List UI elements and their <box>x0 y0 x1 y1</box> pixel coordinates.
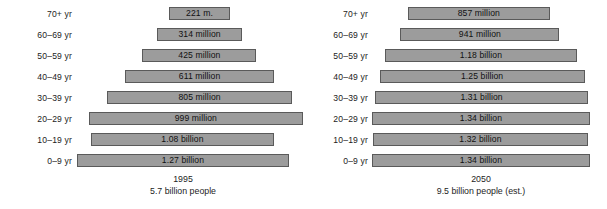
bar-2050-10-19: 1.32 billion <box>373 133 588 146</box>
chart-2050-caption: 2050 9.5 billion people (est.) <box>372 174 590 197</box>
bar-track: 999 million <box>76 109 290 130</box>
age-group-label: 60–69 yr <box>0 25 72 46</box>
bar-value-label: 1.32 billion <box>459 135 501 144</box>
bar-value-label: 1.34 billion <box>460 156 502 165</box>
table-row: 30–39 yr 805 million <box>0 88 300 109</box>
caption-total: 5.7 billion people <box>76 186 290 198</box>
age-group-label: 70+ yr <box>0 4 72 25</box>
bar-track: 1.34 billion <box>372 109 590 130</box>
caption-total: 9.5 billion people (est.) <box>372 186 590 198</box>
table-row: 50–59 yr 425 million <box>0 46 300 67</box>
age-group-label: 50–59 yr <box>300 46 368 67</box>
population-pyramid-figure: 70+ yr 221 m. 60–69 yr 314 million 50–59… <box>0 0 607 209</box>
bar-track: 1.34 billion <box>372 151 590 172</box>
table-row: 30–39 yr 1.31 billion <box>300 88 607 109</box>
bar-2050-20-29: 1.34 billion <box>372 112 590 125</box>
age-group-label: 10–19 yr <box>0 130 72 151</box>
bar-2050-0-9: 1.34 billion <box>372 154 590 167</box>
table-row: 20–29 yr 999 million <box>0 109 300 130</box>
table-row: 60–69 yr 941 million <box>300 25 607 46</box>
bar-value-label: 999 million <box>175 114 217 123</box>
bar-track: 1.31 billion <box>372 88 590 109</box>
bar-track: 1.25 billion <box>372 67 590 88</box>
bar-track: 805 million <box>76 88 290 109</box>
bar-2050-40-49: 1.25 billion <box>380 70 585 83</box>
chart-1995-caption: 1995 5.7 billion people <box>76 174 290 197</box>
bar-track: 425 million <box>76 46 290 67</box>
age-group-label: 70+ yr <box>300 4 368 25</box>
bar-track: 941 million <box>372 25 590 46</box>
bar-1995-20-29: 999 million <box>89 112 303 125</box>
bar-2050-30-39: 1.31 billion <box>375 91 588 104</box>
table-row: 20–29 yr 1.34 billion <box>300 109 607 130</box>
bar-1995-70plus: 221 m. <box>169 7 229 20</box>
bar-value-label: 221 m. <box>186 9 213 18</box>
age-group-label: 20–29 yr <box>300 109 368 130</box>
bar-value-label: 611 million <box>179 72 221 81</box>
bar-value-label: 941 million <box>459 30 501 39</box>
table-row: 40–49 yr 611 million <box>0 67 300 88</box>
age-group-label: 30–39 yr <box>300 88 368 109</box>
bar-track: 1.27 billion <box>76 151 290 172</box>
bar-value-label: 1.25 billion <box>461 72 503 81</box>
caption-year: 2050 <box>372 174 590 186</box>
bar-2050-50-59: 1.18 billion <box>385 49 577 62</box>
age-group-label: 60–69 yr <box>300 25 368 46</box>
bar-track: 221 m. <box>76 4 290 25</box>
bar-2050-70plus: 857 million <box>408 7 550 20</box>
bar-2050-60-69: 941 million <box>400 28 559 41</box>
bar-1995-10-19: 1.08 billion <box>91 133 274 146</box>
bar-1995-30-39: 805 million <box>107 91 292 104</box>
table-row: 60–69 yr 314 million <box>0 25 300 46</box>
age-group-label: 20–29 yr <box>0 109 72 130</box>
bar-track: 314 million <box>76 25 290 46</box>
age-group-label: 10–19 yr <box>300 130 368 151</box>
bar-value-label: 1.18 billion <box>460 51 502 60</box>
bar-1995-50-59: 425 million <box>142 49 256 62</box>
bar-track: 1.18 billion <box>372 46 590 67</box>
table-row: 70+ yr 857 million <box>300 4 607 25</box>
bar-1995-40-49: 611 million <box>125 70 274 83</box>
bar-value-label: 1.08 billion <box>161 135 203 144</box>
table-row: 10–19 yr 1.08 billion <box>0 130 300 151</box>
bar-track: 611 million <box>76 67 290 88</box>
age-group-label: 0–9 yr <box>0 151 72 172</box>
age-group-label: 50–59 yr <box>0 46 72 67</box>
table-row: 10–19 yr 1.32 billion <box>300 130 607 151</box>
age-group-label: 40–49 yr <box>0 67 72 88</box>
table-row: 50–59 yr 1.18 billion <box>300 46 607 67</box>
table-row: 0–9 yr 1.27 billion <box>0 151 300 172</box>
bar-value-label: 425 million <box>178 51 220 60</box>
bar-value-label: 1.27 billion <box>162 156 204 165</box>
bar-1995-60-69: 314 million <box>157 28 242 41</box>
table-row: 70+ yr 221 m. <box>0 4 300 25</box>
bar-track: 1.32 billion <box>372 130 590 151</box>
bar-track: 1.08 billion <box>76 130 290 151</box>
bar-value-label: 1.31 billion <box>460 93 502 102</box>
bar-1995-0-9: 1.27 billion <box>77 154 289 167</box>
age-group-label: 30–39 yr <box>0 88 72 109</box>
bar-value-label: 1.34 billion <box>460 114 502 123</box>
chart-2050: 70+ yr 857 million 60–69 yr 941 million … <box>300 0 607 209</box>
caption-year: 1995 <box>76 174 290 186</box>
table-row: 40–49 yr 1.25 billion <box>300 67 607 88</box>
bar-value-label: 314 million <box>178 30 220 39</box>
bar-track: 857 million <box>372 4 590 25</box>
bar-value-label: 857 million <box>458 9 500 18</box>
age-group-label: 0–9 yr <box>300 151 368 172</box>
table-row: 0–9 yr 1.34 billion <box>300 151 607 172</box>
chart-1995: 70+ yr 221 m. 60–69 yr 314 million 50–59… <box>0 0 300 209</box>
age-group-label: 40–49 yr <box>300 67 368 88</box>
bar-value-label: 805 million <box>178 93 220 102</box>
